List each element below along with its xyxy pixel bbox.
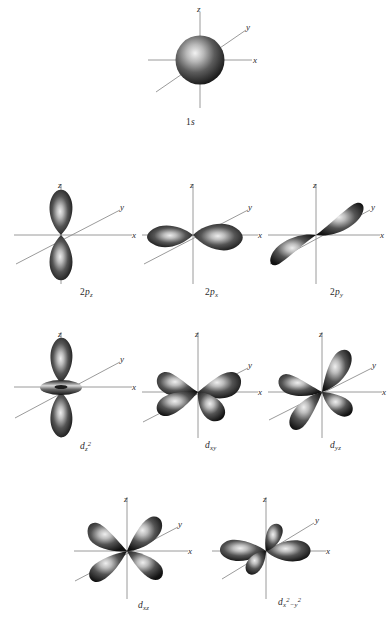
lobe-upper-left: [88, 523, 127, 552]
lobe-right: [193, 224, 243, 251]
orbital-figure: z y x 1s: [0, 0, 390, 625]
orbital-label-2px: 2px: [205, 287, 218, 298]
orbital-label-1s: 1s: [186, 117, 195, 127]
orbital-label-dx2y2-sup2: 2: [298, 596, 301, 603]
axis-label-x: x: [257, 230, 262, 240]
orbital-diagram-dyz: z y x: [266, 330, 390, 442]
lobe-lower-left: [157, 391, 198, 416]
axis-label-z: z: [262, 495, 267, 504]
axis-label-z: z: [189, 180, 194, 190]
axis-label-z: z: [123, 495, 128, 504]
orbital-label-dz2-sup: 2: [88, 440, 91, 447]
axis-label-z: z: [312, 180, 317, 190]
orbital-diagram-2px: z y x: [140, 180, 266, 288]
axis-label-x: x: [381, 387, 386, 397]
orbital-label-dxy: dxy: [205, 440, 216, 451]
orbital-diagram-2pz: z y x: [12, 180, 138, 288]
lobe-down: [50, 392, 72, 437]
axis-label-z: z: [194, 330, 199, 339]
axis-label-y: y: [245, 22, 250, 32]
lobe-up: [50, 338, 72, 383]
orbital-label-dxz-sub: xz: [143, 604, 149, 611]
axis-label-x: x: [252, 55, 257, 65]
axis-label-x: x: [257, 387, 262, 397]
axis-label-y: y: [371, 360, 376, 370]
torus-hole: [55, 385, 68, 389]
orbital-label-2px-sub: x: [215, 291, 218, 298]
orbital-label-dx2y2-sub2: −y: [290, 601, 298, 608]
sphere-lobe: [176, 36, 225, 85]
orbital-diagram-dz2: z y x: [12, 330, 138, 442]
orbital-label-dyz-sub: yz: [335, 444, 341, 451]
lobe-right: [322, 392, 353, 417]
orbital-label-1s-letter: s: [191, 117, 195, 127]
orbital-diagram-1s: z y x: [140, 4, 260, 116]
axis-label-x: x: [187, 546, 192, 556]
orbital-label-2pz-sub: z: [90, 291, 93, 298]
orbital-label-2pz: 2pz: [80, 287, 93, 298]
lobe-lower-left: [289, 392, 322, 430]
orbital-diagram-2py: z y x: [266, 180, 390, 288]
axis-label-y: y: [247, 360, 252, 370]
axis-label-z: z: [196, 4, 201, 14]
orbital-diagram-dxy: z y x: [140, 330, 266, 442]
orbital-diagram-dx2y2: z y x: [210, 495, 336, 603]
axis-label-y: y: [370, 202, 375, 212]
axis-label-x: x: [325, 546, 330, 556]
axis-label-y: y: [314, 515, 319, 525]
lobe-left: [278, 374, 322, 396]
lobe-up: [50, 190, 73, 235]
axis-label-y: y: [119, 354, 124, 364]
lobe-left: [147, 225, 193, 247]
orbital-label-2py: 2py: [330, 287, 343, 298]
orbital-label-dxz: dxz: [138, 600, 149, 611]
orbital-label-dyz: dyz: [330, 440, 341, 451]
lobe-upper-right: [316, 203, 364, 236]
axis-label-x: x: [379, 230, 384, 240]
axis-label-x: x: [131, 382, 136, 392]
axis-label-x: x: [131, 230, 136, 240]
lobe-upper-right: [127, 516, 162, 551]
axis-label-y: y: [177, 519, 182, 529]
orbital-label-dx2y2: dx2−y2: [278, 596, 301, 608]
axis-label-y: y: [119, 202, 124, 212]
orbital-label-dz2: dz2: [80, 440, 91, 452]
lobe-down: [50, 235, 73, 280]
axis-label-z: z: [57, 180, 62, 190]
lobe-lower-right: [127, 551, 163, 580]
axis-label-z: z: [57, 330, 62, 339]
lobe-lower-left: [270, 234, 316, 265]
axes-2pz: [14, 184, 132, 284]
lobe-lower-left: [89, 551, 127, 582]
orbital-label-dxy-sub: xy: [210, 444, 216, 451]
axis-label-z: z: [318, 330, 323, 339]
orbital-diagram-dxz: z y x: [72, 495, 198, 603]
axis-label-y: y: [247, 202, 252, 212]
orbital-label-2py-sub: y: [340, 291, 343, 298]
